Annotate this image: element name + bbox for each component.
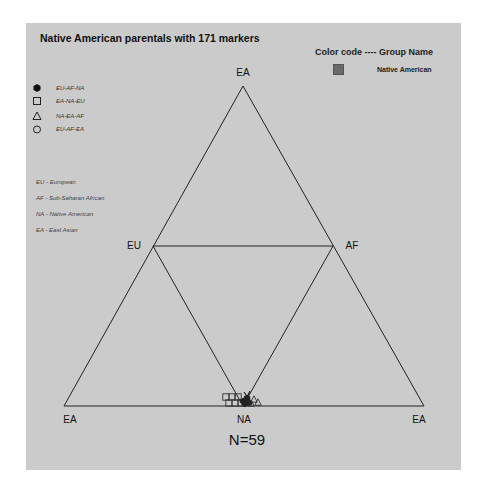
data-point — [226, 400, 232, 406]
triangle-icon — [33, 112, 41, 120]
ternary-plot — [0, 0, 484, 493]
filled-hexagon-icon — [34, 84, 41, 92]
data-point — [232, 400, 238, 406]
data-point — [223, 394, 229, 400]
data-points — [223, 391, 261, 407]
square-icon — [34, 98, 41, 105]
inner-triangle — [153, 246, 333, 406]
data-point — [229, 394, 235, 400]
circle-icon — [34, 126, 41, 133]
